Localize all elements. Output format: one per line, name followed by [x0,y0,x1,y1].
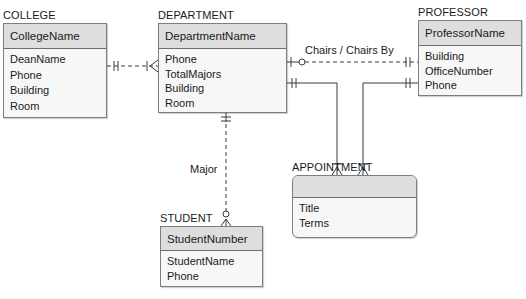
department-entity-title: DEPARTMENT [158,9,234,21]
department-attributes: Phone TotalMajors Building Room [159,49,286,113]
college-attributes: DeanName Phone Building Room [4,49,106,117]
professor-primary-key: ProfessorName [419,21,521,46]
attribute: Phone [10,68,100,84]
department-entity[interactable]: DepartmentName Phone TotalMajors Buildin… [158,23,287,113]
attribute: Building [165,81,280,96]
attribute: Phone [165,52,280,67]
attribute: Building [425,49,515,64]
professor-attributes: Building OfficeNumber Phone [419,46,521,96]
appointment-attributes: Title Terms [293,198,416,237]
attribute: Terms [299,216,410,231]
professor-entity-title: PROFESSOR [418,6,488,18]
student-entity[interactable]: StudentNumber StudentName Phone [160,226,263,287]
attribute: Phone [425,78,515,93]
attribute: TotalMajors [165,67,280,82]
attribute: DeanName [10,52,100,68]
department-primary-key: DepartmentName [159,24,286,49]
appointment-primary-key [293,176,416,198]
appointment-entity-title: APPOINTMENT [292,161,373,173]
attribute: Title [299,201,410,216]
attribute: Phone [167,269,256,284]
college-primary-key: CollegeName [4,24,106,49]
attribute: OfficeNumber [425,64,515,79]
student-primary-key: StudentNumber [161,227,262,251]
professor-entity[interactable]: ProfessorName Building OfficeNumber Phon… [418,20,522,96]
college-entity-title: COLLEGE [3,9,56,21]
chairs-relationship [287,57,418,67]
college-department-relationship [107,60,158,72]
student-attributes: StudentName Phone [161,251,262,287]
attribute: Room [10,99,100,115]
appointment-entity[interactable]: Title Terms [292,175,417,238]
college-entity[interactable]: CollegeName DeanName Phone Building Room [3,23,107,118]
major-relationship [221,113,231,226]
major-label: Major [190,163,218,175]
attribute: Room [165,96,280,111]
chairs-label: Chairs / Chairs By [305,44,394,56]
attribute: Building [10,83,100,99]
attribute: StudentName [167,254,256,269]
student-entity-title: STUDENT [160,212,213,224]
